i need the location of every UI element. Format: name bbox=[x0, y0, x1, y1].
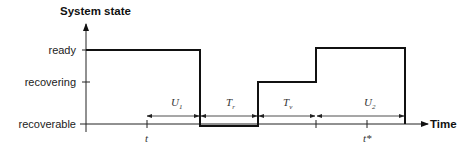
state-label-ready: ready bbox=[48, 44, 76, 56]
time-label-t: t bbox=[145, 132, 149, 144]
y-axis-title: System state bbox=[60, 5, 131, 17]
system-state-diagram: System state Time ready recovering recov… bbox=[0, 0, 475, 149]
interval-label-tr: Tr bbox=[226, 96, 235, 111]
state-trajectory bbox=[86, 48, 405, 126]
interval-label-u1: U1 bbox=[171, 96, 182, 111]
state-label-recovering: recovering bbox=[25, 76, 76, 88]
x-axis-title: Time bbox=[430, 118, 457, 130]
state-label-recoverable: recoverable bbox=[19, 118, 76, 130]
interval-label-u2: U2 bbox=[364, 96, 376, 111]
time-label-t-star: t* bbox=[363, 132, 372, 144]
interval-label-tv: Tv bbox=[283, 96, 293, 111]
